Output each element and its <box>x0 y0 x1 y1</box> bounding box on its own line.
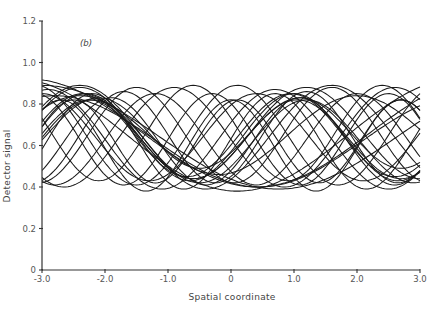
y-tick-label: 0.2 <box>22 224 36 234</box>
x-tick-label: 1.0 <box>287 274 301 284</box>
x-axis-title: Spatial coordinate <box>188 292 275 302</box>
y-tick-label: 1.0 <box>22 58 36 68</box>
y-axis-title: Detector signal <box>2 129 12 202</box>
chart-figure: 00.20.40.60.81.01.2 -3.0-2.0-1.001.02.03… <box>0 0 439 315</box>
x-tick-label: 3.0 <box>413 274 427 284</box>
y-axis-ticks: 00.20.40.60.81.01.2 <box>22 16 43 275</box>
x-axis-ticks: -3.0-2.0-1.001.02.03.0 <box>34 269 427 284</box>
y-tick-label: 1.2 <box>22 16 36 26</box>
panel-label: (b) <box>80 38 92 48</box>
plot-area <box>42 80 420 191</box>
x-tick-label: -2.0 <box>97 274 114 284</box>
y-tick-label: 0.4 <box>22 182 36 192</box>
x-tick-label: -1.0 <box>160 274 177 284</box>
signal-curves <box>42 80 420 191</box>
x-tick-label: -3.0 <box>34 274 51 284</box>
y-tick-label: 0.6 <box>22 141 36 151</box>
x-tick-label: 2.0 <box>350 274 364 284</box>
x-tick-label: 0 <box>228 274 233 284</box>
y-tick-label: 0.8 <box>22 99 36 109</box>
figure-caption-partial <box>6 308 436 315</box>
